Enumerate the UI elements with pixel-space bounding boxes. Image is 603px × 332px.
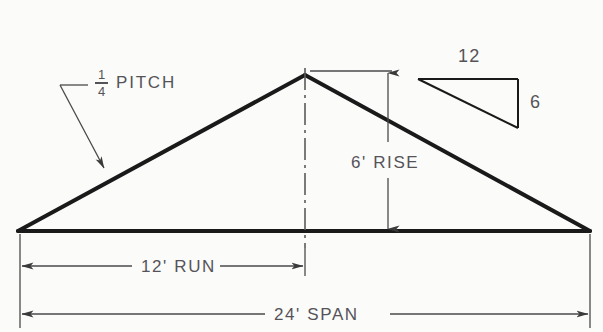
slope-triangle-hypotenuse <box>418 79 518 128</box>
diagram-canvas <box>0 0 603 332</box>
rise-dimension-label: 6' RISE <box>347 152 423 173</box>
roof-left-rafter-line <box>18 75 305 231</box>
pitch-fraction-numerator: 1 <box>96 68 107 82</box>
span-dimension-label: 24' SPAN <box>270 305 363 324</box>
pitch-word-label: PITCH <box>116 73 176 93</box>
rise-dimension <box>310 71 392 229</box>
slope-rise-label: 6 <box>530 93 541 111</box>
slope-run-label: 12 <box>458 47 480 65</box>
run-dimension-label: 12' RUN <box>137 257 220 276</box>
pitch-fraction-denominator: 4 <box>96 84 107 98</box>
roof-pitch-diagram: 1 4 PITCH 6' RISE 12' RUN 24' SPAN 12 6 <box>0 0 603 332</box>
pitch-fraction: 1 4 <box>95 68 108 98</box>
pitch-callout-label: 1 4 PITCH <box>95 68 176 98</box>
slope-ratio-triangle <box>418 79 518 128</box>
